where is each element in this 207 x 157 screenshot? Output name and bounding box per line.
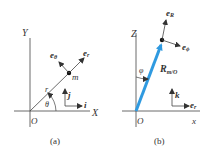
x-axis-label-b: x bbox=[191, 116, 196, 126]
e-r-label-b: er bbox=[190, 100, 197, 110]
radius-line bbox=[30, 73, 69, 111]
e-R-arrow bbox=[162, 20, 166, 40]
mass-label: m bbox=[72, 72, 79, 82]
e-r-label: er bbox=[83, 48, 90, 58]
panel-a: Y X O m r θ er eθ j i (a) bbox=[14, 27, 99, 146]
caption-a: (a) bbox=[50, 136, 60, 146]
k-label: k bbox=[175, 90, 180, 100]
e-r-arrow bbox=[69, 58, 84, 73]
phi-label: φ bbox=[139, 66, 144, 75]
origin-label: O bbox=[31, 116, 38, 126]
e-theta-label: eθ bbox=[50, 50, 58, 60]
x-axis-label: X bbox=[91, 107, 99, 118]
origin-label-b: O bbox=[137, 116, 144, 126]
phi-arc bbox=[136, 77, 148, 79]
caption-b: (b) bbox=[154, 136, 165, 146]
panel-b: Z x O Rm/O φ eR eϕ k er (b) bbox=[122, 8, 200, 146]
y-axis-label: Y bbox=[22, 27, 29, 38]
e-phi-label: eϕ bbox=[182, 42, 190, 52]
theta-label: θ bbox=[45, 100, 49, 109]
e-R-label: eR bbox=[166, 8, 174, 18]
j-label: j bbox=[66, 90, 71, 100]
diagram-svg: Y X O m r θ er eθ j i (a) Z x O Rm/O φ e… bbox=[0, 0, 207, 157]
theta-arc bbox=[48, 93, 56, 111]
i-label: i bbox=[84, 100, 87, 110]
diagram-canvas: Y X O m r θ er eθ j i (a) Z x O Rm/O φ e… bbox=[0, 0, 207, 157]
position-vector-label: Rm/O bbox=[159, 63, 178, 75]
e-theta-arrow bbox=[59, 62, 69, 73]
e-phi-arrow bbox=[162, 40, 180, 46]
z-axis-label: Z bbox=[131, 28, 137, 39]
